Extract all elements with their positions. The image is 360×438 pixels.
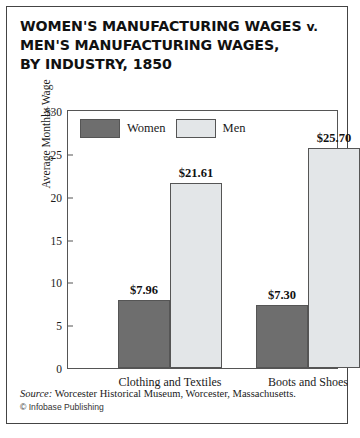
bar-women-1: $7.96 <box>118 300 170 368</box>
copyright-line: © Infobase Publishing <box>20 401 340 414</box>
title-line-2: MEN'S MANUFACTURING WAGES, <box>20 36 330 55</box>
title-line-1: WOMEN'S MANUFACTURING WAGES v. <box>20 17 330 36</box>
bar-value-label: $7.30 <box>268 288 296 303</box>
y-tick-label: 20 <box>51 192 69 204</box>
title-line-1-text: WOMEN'S MANUFACTURING WAGES <box>20 18 302 34</box>
figure-footer: Source: Worcester Historical Museum, Wor… <box>20 387 340 414</box>
plot-area: Average Monthly Wage 0510152025$30 Women… <box>67 110 338 369</box>
source-keyword: Source: <box>20 388 52 399</box>
y-tick-label: 5 <box>56 320 68 332</box>
y-tick-mark <box>68 197 73 198</box>
legend-swatch-women <box>80 119 120 138</box>
chart-legend: WomenMen <box>80 119 246 138</box>
legend-item-women: Women <box>80 119 166 138</box>
bar-men-2: $25.70 <box>308 148 360 368</box>
source-text: Worcester Historical Museum, Worcester, … <box>55 388 296 399</box>
bar-men-1: $21.61 <box>170 183 222 368</box>
bar-women-2: $7.30 <box>256 305 308 368</box>
y-tick-label: $30 <box>45 106 68 118</box>
source-line: Source: Worcester Historical Museum, Wor… <box>20 387 340 401</box>
chart-figure: WOMEN'S MANUFACTURING WAGES v. MEN'S MAN… <box>6 6 348 424</box>
y-tick-label: 15 <box>51 235 69 247</box>
legend-label: Women <box>127 121 166 136</box>
y-tick-mark <box>68 326 73 327</box>
bar-value-label: $21.61 <box>179 166 213 181</box>
y-tick-mark <box>68 154 73 155</box>
legend-item-men: Men <box>176 119 246 138</box>
y-tick-label: 10 <box>51 277 69 289</box>
y-tick-mark <box>68 240 73 241</box>
bar-value-label: $25.70 <box>317 131 351 146</box>
bar-value-label: $7.96 <box>130 283 158 298</box>
y-tick-label: 25 <box>51 149 69 161</box>
legend-swatch-men <box>176 119 216 138</box>
page-title: WOMEN'S MANUFACTURING WAGES v. MEN'S MAN… <box>20 17 330 74</box>
legend-label: Men <box>223 121 246 136</box>
y-tick-label: 0 <box>56 363 68 375</box>
title-versus: v. <box>306 19 318 34</box>
y-tick-mark <box>68 283 73 284</box>
title-line-3: BY INDUSTRY, 1850 <box>20 55 330 74</box>
